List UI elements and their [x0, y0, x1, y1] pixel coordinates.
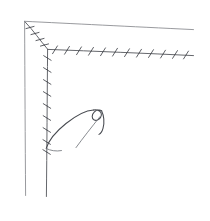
left-wire-barb-5-spike: [43, 116, 47, 118]
top-wire-barb-9-spike: [163, 50, 165, 54]
left-wire-barb-7-spike: [43, 140, 47, 142]
top-wire-barb-6-spike: [127, 49, 129, 53]
top-wire-barb-2-spike: [77, 51, 79, 55]
top-wire-line: [48, 49, 194, 55]
top-wire-barb-11-spike: [186, 51, 188, 55]
left-wire-barb-2-spike: [43, 80, 47, 82]
diagonal-wire-barb-1-spike: [31, 34, 35, 35]
diagonal-wire-barb-1-spike: [35, 32, 39, 33]
left-wire-barb-8-spike: [43, 150, 47, 152]
left-wire-barb-0-spike: [44, 56, 48, 58]
top-wire-barb-8-spike: [151, 50, 153, 54]
top-wire-barb-5-spike: [115, 48, 117, 52]
diagonal-wire-barb-0-spike: [26, 28, 30, 29]
diagonal-wire-barb-3-spike: [45, 44, 49, 45]
top-wire-barb-3-spike: [91, 47, 93, 51]
diagonal-wire-barb-3-spike: [40, 45, 44, 46]
fence-corner-illustration: [0, 0, 210, 221]
diagonal-wire-barb-2-spike: [40, 38, 44, 39]
top-wire-barb-1-spike: [65, 50, 67, 54]
loose-wire: [46, 110, 104, 151]
top-wire-barb-1-spike: [67, 46, 69, 50]
loose-wire-loop: [92, 110, 101, 120]
loose-wire-hook-end: [46, 149, 61, 151]
left-rail-line: [25, 21, 26, 195]
top-wire-barb-5-spike: [113, 52, 115, 56]
top-wire-barb-4-spike: [103, 48, 105, 52]
top-wire-barb-0-spike: [55, 46, 57, 50]
top-wire-barb-9-spike: [161, 54, 163, 58]
left-wire-line: [46, 49, 47, 196]
fence-rails: [25, 21, 194, 195]
barbed-wire-strands: [25, 22, 193, 197]
diagonal-wire-barb-2-spike: [36, 40, 40, 41]
wire-barbs: [26, 26, 188, 154]
left-wire-barb-4-spike: [43, 104, 47, 106]
top-wire-barb-8-spike: [149, 54, 151, 58]
loose-wire-arc: [46, 110, 93, 148]
top-wire-barb-7-spike: [139, 49, 141, 53]
top-wire-barb-10-spike: [175, 51, 177, 55]
top-rail-line: [25, 21, 194, 29]
top-wire-barb-3-spike: [89, 51, 91, 55]
left-wire-barb-1-spike: [44, 68, 48, 70]
top-wire-barb-0-spike: [53, 50, 55, 54]
left-wire-barb-6-spike: [43, 128, 47, 130]
top-wire-barb-4-spike: [101, 52, 103, 56]
left-wire-barb-3-spike: [43, 92, 47, 94]
loose-wire-lower-tail: [76, 117, 100, 148]
drawing-canvas: [0, 0, 210, 221]
top-wire-barb-6-spike: [125, 53, 127, 57]
diagonal-wire-barb-0-spike: [30, 26, 34, 27]
top-wire-barb-7-spike: [137, 53, 139, 57]
top-wire-barb-2-spike: [79, 47, 81, 51]
